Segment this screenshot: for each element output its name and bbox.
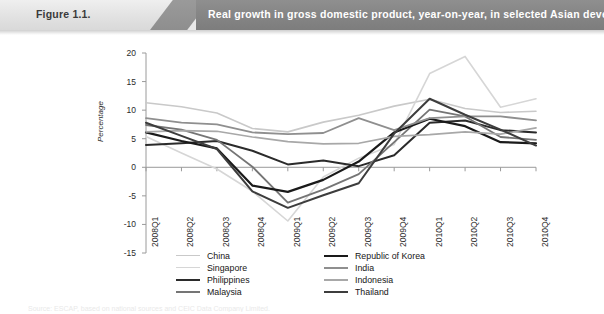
figure-number-label: Figure 1.1. <box>36 8 91 20</box>
x-axis-tick-label: 2008Q1 <box>150 217 160 247</box>
legend-label: Thailand <box>355 286 389 298</box>
x-axis-tick-label: 2008Q4 <box>256 217 266 247</box>
legend-swatch-icon <box>176 267 200 268</box>
chart-legend: ChinaSingaporePhilippinesMalaysia Republ… <box>176 250 496 300</box>
x-axis-tick-label: 2010Q4 <box>540 217 550 247</box>
legend-label: Malaysia <box>207 286 242 298</box>
legend-swatch-icon <box>324 267 348 269</box>
y-axis-tick-label: 15 <box>110 77 136 87</box>
x-axis-tick-label: 2009Q4 <box>398 217 408 247</box>
x-axis-tick-label: 2009Q2 <box>327 217 337 247</box>
y-axis-tick-label: -5 <box>110 191 136 201</box>
legend-label: Republic of Korea <box>355 250 425 262</box>
figure-header-band: Figure 1.1. Real growth in gross domesti… <box>0 0 604 30</box>
series-line-thailand <box>146 99 536 208</box>
legend-label: Singapore <box>207 262 247 274</box>
chart-container: Percentage 20151050-5-10-152008Q12008Q22… <box>0 36 604 256</box>
x-axis-tick-label: 2008Q2 <box>185 217 195 247</box>
y-axis-tick-label: 0 <box>110 162 136 172</box>
y-axis-tick-label: -10 <box>110 219 136 229</box>
legend-swatch-icon <box>176 255 200 256</box>
y-axis-tick-label: 10 <box>110 105 136 115</box>
series-line-singapore <box>146 56 536 221</box>
legend-swatch-icon <box>176 279 200 281</box>
x-axis-tick-label: 2009Q1 <box>292 217 302 247</box>
y-axis-tick-label: 20 <box>110 48 136 58</box>
legend-swatch-icon <box>176 291 200 293</box>
source-note: Source: ESCAP, based on national sources… <box>28 305 588 312</box>
legend-label: Philippines <box>207 274 250 286</box>
x-axis-tick-label: 2009Q3 <box>363 217 373 247</box>
legend-label: Indonesia <box>355 274 393 286</box>
legend-swatch-icon <box>324 291 348 293</box>
x-axis-tick-label: 2010Q1 <box>434 217 444 247</box>
figure-title-label: Real growth in gross domestic product, y… <box>208 7 598 21</box>
y-axis-tick-label: 5 <box>110 134 136 144</box>
x-axis-tick-label: 2010Q3 <box>505 217 515 247</box>
legend-swatch-icon <box>324 255 348 257</box>
legend-label: China <box>207 250 230 262</box>
header-drop-shadow <box>0 30 604 35</box>
y-axis-tick-label: -15 <box>110 248 136 258</box>
x-axis-tick-label: 2008Q3 <box>221 217 231 247</box>
legend-swatch-icon <box>324 279 348 281</box>
legend-label: India <box>355 262 374 274</box>
x-axis-tick-label: 2010Q2 <box>469 217 479 247</box>
